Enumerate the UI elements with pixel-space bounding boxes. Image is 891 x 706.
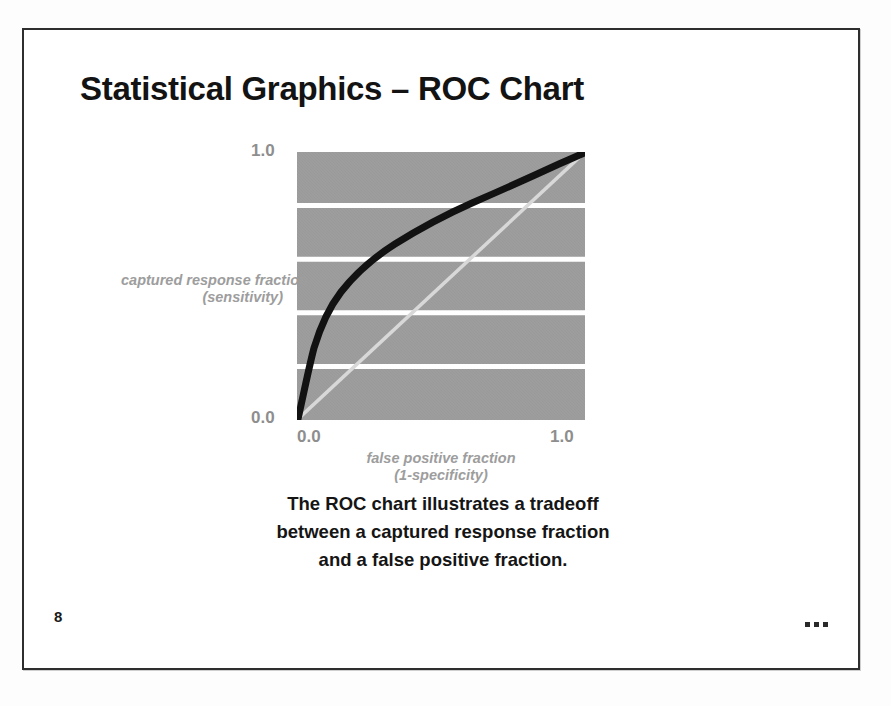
ellipsis-dot-2 <box>814 622 819 627</box>
scanned-slide-page: Statistical Graphics – ROC Chart 1.0 0.0… <box>0 0 891 706</box>
page-number: 8 <box>54 608 62 625</box>
roc-chart: 1.0 0.0 0.0 1.0 captured response fracti… <box>297 152 587 422</box>
y-axis-title-line2: (sensitivity) <box>121 289 283 306</box>
page-title: Statistical Graphics – ROC Chart <box>80 70 584 108</box>
ellipsis-dot-3 <box>823 622 828 627</box>
plot-svg <box>297 152 585 420</box>
ellipsis-dot-1 <box>805 622 810 627</box>
caption-line-3: and a false positive fraction. <box>139 546 747 574</box>
y-axis-min-label: 0.0 <box>251 408 275 428</box>
slide-caption: The ROC chart illustrates a tradeoff bet… <box>139 490 747 574</box>
y-axis-title: captured response fraction (sensitivity) <box>121 272 283 306</box>
y-axis-max-label: 1.0 <box>251 141 275 161</box>
caption-line-2: between a captured response fraction <box>139 518 747 546</box>
y-axis-title-line1: captured response fraction <box>121 272 283 289</box>
x-axis-title-line1: false positive fraction <box>327 450 555 467</box>
x-axis-title: false positive fraction (1-specificity) <box>327 450 555 484</box>
caption-line-1: The ROC chart illustrates a tradeoff <box>139 490 747 518</box>
ellipsis-icon <box>805 622 828 627</box>
x-axis-title-line2: (1-specificity) <box>327 467 555 484</box>
slide-frame: Statistical Graphics – ROC Chart 1.0 0.0… <box>22 28 860 670</box>
x-axis-min-label: 0.0 <box>297 427 321 447</box>
chance-diagonal-line <box>297 152 585 420</box>
x-axis-max-label: 1.0 <box>550 427 574 447</box>
